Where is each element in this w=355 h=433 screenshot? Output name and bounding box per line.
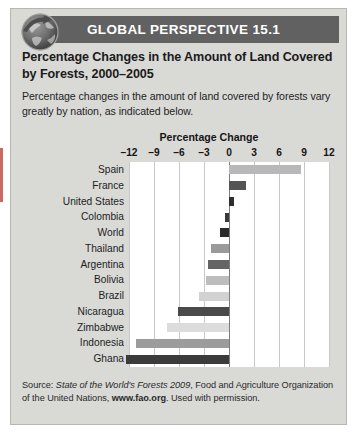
x-tick-label: 0 xyxy=(226,147,232,158)
chart-row: Indonesia xyxy=(22,335,336,351)
country-label: United States xyxy=(22,194,124,210)
country-label: Zimbabwe xyxy=(22,320,124,336)
chart-row: Brazil xyxy=(22,288,336,304)
source-suffix: . Used with permission. xyxy=(166,393,260,403)
banner: GLOBAL PERSPECTIVE 15.1 xyxy=(47,16,339,43)
country-label: Bolivia xyxy=(22,272,124,288)
country-label: Spain xyxy=(22,162,124,178)
country-label: France xyxy=(22,178,124,194)
bar xyxy=(229,165,301,174)
panel-body: Percentage Changes in the Amount of Land… xyxy=(22,49,336,417)
x-tick-label: –6 xyxy=(173,147,184,158)
chart-row: France xyxy=(22,178,336,194)
country-label: Colombia xyxy=(22,209,124,225)
bar xyxy=(208,260,229,269)
country-label: Indonesia xyxy=(22,335,124,351)
page-title: Percentage Changes in the Amount of Land… xyxy=(22,49,336,84)
country-label: Nicaragua xyxy=(22,304,124,320)
bar-rows: SpainFranceUnited StatesColombiaWorldTha… xyxy=(22,162,336,367)
global-perspective-card: GLOBAL PERSPECTIVE 15.1 xyxy=(10,8,347,425)
source-title: State of the World's Forests 2009 xyxy=(56,380,190,390)
country-label: Argentina xyxy=(22,257,124,273)
source-prefix: Source: xyxy=(22,380,56,390)
bar xyxy=(225,213,229,222)
x-tick-label: 12 xyxy=(323,147,334,158)
x-tick-label: –12 xyxy=(121,147,138,158)
chart-row: Nicaragua xyxy=(22,304,336,320)
bar xyxy=(178,307,229,316)
chart-row: Thailand xyxy=(22,241,336,257)
x-tick-label: 9 xyxy=(301,147,307,158)
bar xyxy=(211,244,229,253)
plot-wrapper: –12–9–6–3036912 SpainFranceUnited States… xyxy=(22,147,336,371)
bar xyxy=(206,276,229,285)
country-label: Ghana xyxy=(22,351,124,367)
country-label: World xyxy=(22,225,124,241)
chart-row: Bolivia xyxy=(22,272,336,288)
country-label: Brazil xyxy=(22,288,124,304)
forest-change-chart: Percentage Change –12–9–6–3036912 SpainF… xyxy=(22,131,336,371)
globe-arrow-icon xyxy=(18,11,62,52)
chart-row: Spain xyxy=(22,162,336,178)
x-tick-label: 6 xyxy=(276,147,282,158)
chart-row: United States xyxy=(22,194,336,210)
source-url: www.fao.org xyxy=(112,393,166,403)
page-edge-marker xyxy=(0,148,3,202)
x-tick-label: 3 xyxy=(251,147,257,158)
chart-row: Ghana xyxy=(22,351,336,367)
source-note: Source: State of the World's Forests 200… xyxy=(22,379,336,405)
chart-row: Argentina xyxy=(22,257,336,273)
country-label: Thailand xyxy=(22,241,124,257)
bar xyxy=(136,339,229,348)
banner-title: GLOBAL PERSPECTIVE 15.1 xyxy=(47,22,280,37)
chart-row: Zimbabwe xyxy=(22,320,336,336)
x-tick-label: –3 xyxy=(198,147,209,158)
bar xyxy=(229,181,246,190)
bar xyxy=(220,228,229,237)
chart-row: World xyxy=(22,225,336,241)
screenshot-root: GLOBAL PERSPECTIVE 15.1 xyxy=(0,0,355,433)
x-axis-ticks: –12–9–6–3036912 xyxy=(22,147,336,161)
panel-subtitle: Percentage changes in the amount of land… xyxy=(22,89,336,119)
bar xyxy=(229,197,234,206)
chart-row: Colombia xyxy=(22,209,336,225)
bar xyxy=(167,323,230,332)
bar xyxy=(126,355,229,364)
x-tick-label: –9 xyxy=(148,147,159,158)
bar xyxy=(199,292,229,301)
chart-axis-title: Percentage Change xyxy=(22,131,336,143)
